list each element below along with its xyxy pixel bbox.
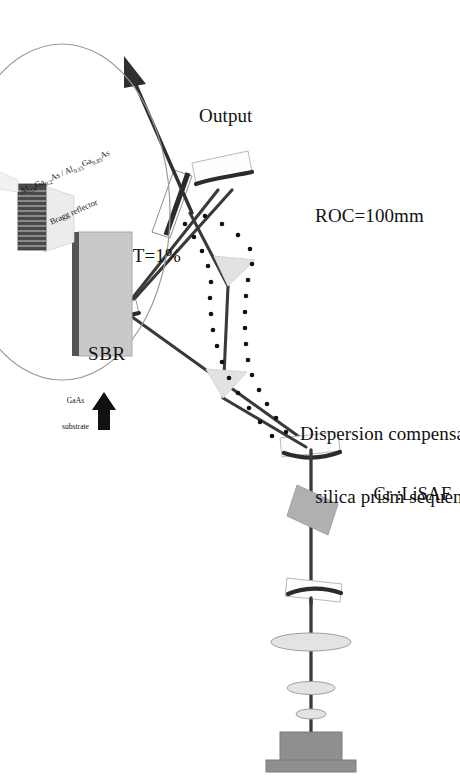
label-gain-crystal: Cr :LiSAF xyxy=(346,464,451,524)
pump-lens-small xyxy=(296,709,326,719)
label-output-text: Output xyxy=(199,105,252,126)
curved-fold-mirror-pump-side xyxy=(285,578,342,602)
label-gain-crystal-text: Cr :LiSAF xyxy=(374,484,451,504)
label-output-coupler-text: T=1% xyxy=(133,245,181,266)
label-pump-source: AlGaInP pump source xyxy=(368,748,460,784)
pump-lens-large xyxy=(271,633,351,651)
label-gaas-substrate-line2: substrate xyxy=(62,423,89,432)
label-gaas-substrate: GaAs substrate xyxy=(62,380,89,449)
label-roc-mirror: ROC=100mm xyxy=(286,184,424,248)
laser-cavity-figure: Output T=1% Dispersion compensating sili… xyxy=(0,0,460,784)
label-output-coupler: T=1% xyxy=(104,224,181,288)
roc-100mm-curved-mirror xyxy=(192,151,252,184)
algainp-pump-diode xyxy=(266,732,356,772)
label-output: Output xyxy=(170,84,253,148)
label-prism-sequence-line1: Dispersion compensating xyxy=(300,423,460,444)
label-sbr: SBR xyxy=(56,322,126,386)
pump-lens-medium xyxy=(287,682,335,695)
label-roc-mirror-text: ROC=100mm xyxy=(315,205,424,226)
label-gaas-substrate-line1: GaAs xyxy=(62,397,89,406)
figure-rotated-canvas: Output T=1% Dispersion compensating sili… xyxy=(0,0,460,784)
label-sbr-text: SBR xyxy=(88,343,126,364)
